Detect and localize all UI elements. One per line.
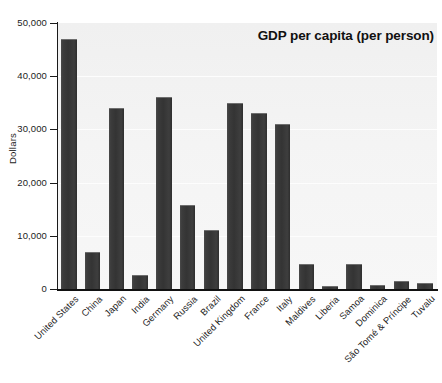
y-axis-tick (50, 23, 57, 24)
y-axis-tick (50, 76, 57, 77)
x-axis-line (57, 289, 438, 291)
x-axis-tick-label: France (242, 293, 271, 322)
y-axis-tick-label: 40,000 (17, 70, 47, 81)
y-axis-tick (50, 289, 57, 290)
x-axis-tick-label: Japan (102, 293, 128, 319)
bar (394, 281, 410, 289)
bar (227, 103, 243, 289)
bar (85, 252, 101, 289)
x-axis-tick-label: Russia (171, 293, 199, 321)
x-axis-tick-label: Tuvalu (409, 293, 437, 321)
bar (156, 97, 172, 289)
bar (109, 108, 125, 289)
y-axis-tick-label: 20,000 (17, 177, 47, 188)
y-axis-tick (50, 183, 57, 184)
x-axis-tick-label: China (79, 293, 104, 318)
y-axis-tick-label: 30,000 (17, 123, 47, 134)
y-axis-tick-label: 50,000 (17, 17, 47, 28)
x-axis-tick-label: Liberia (313, 293, 341, 321)
y-axis-tick (50, 236, 57, 237)
bar (322, 286, 338, 289)
bar (346, 264, 362, 289)
bar (132, 275, 148, 289)
y-axis-tick-label: 0 (42, 283, 47, 294)
bar (275, 124, 291, 289)
y-axis-title: Dollars (7, 119, 18, 179)
bar (204, 230, 220, 289)
bars-layer (57, 23, 437, 289)
bar (417, 283, 433, 289)
bar (61, 39, 77, 289)
y-axis-tick (50, 129, 57, 130)
gdp-per-capita-bar-chart: GDP per capita (per person) 010,00020,00… (0, 0, 442, 383)
y-axis-tick-label: 10,000 (17, 230, 47, 241)
bar (180, 205, 196, 289)
bar (251, 113, 267, 289)
bar (370, 285, 386, 289)
bar (299, 264, 315, 289)
